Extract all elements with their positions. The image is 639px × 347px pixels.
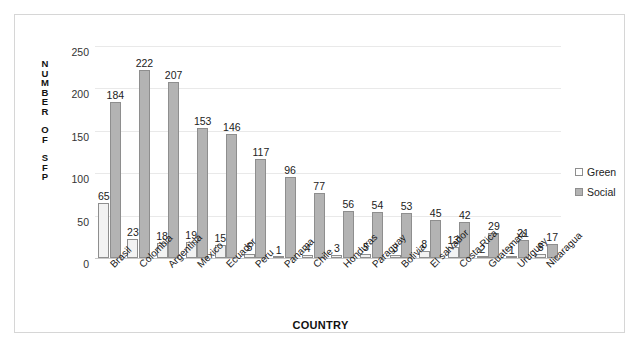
- bar-group: 554: [357, 46, 386, 258]
- bar-value-label: 146: [223, 121, 241, 133]
- bar-value-label: 42: [459, 209, 471, 221]
- y-axis-title-letter: P: [37, 172, 53, 182]
- legend-swatch-icon: [575, 168, 583, 176]
- bar-group: 353: [386, 46, 415, 258]
- bar-social: [110, 102, 121, 258]
- bar-value-label: 153: [194, 115, 212, 127]
- legend-swatch-icon: [575, 188, 583, 196]
- bar-group: 845: [415, 46, 444, 258]
- bar-value-label: 45: [430, 207, 442, 219]
- bar-green: [477, 256, 488, 258]
- bar-social: [285, 177, 296, 258]
- bar-value-label: 222: [136, 57, 154, 69]
- x-axis-category-labels: BrasilColombiaArgentinaMexicoEcuadorPeru…: [95, 260, 561, 318]
- bar-value-label: 207: [165, 69, 183, 81]
- bar-group: 15146: [212, 46, 241, 258]
- bar-value-label: 117: [253, 146, 270, 158]
- bar-value-label: 1: [276, 244, 282, 256]
- y-axis-title-letter: F: [37, 135, 53, 145]
- bar-green: [331, 255, 342, 258]
- y-axis-title: NUMBEROFSFP: [37, 59, 53, 182]
- legend-item-green[interactable]: Green: [575, 166, 616, 178]
- bar-group: 1342: [445, 46, 474, 258]
- bar-group: 356: [328, 46, 357, 258]
- bar-value-label: 56: [342, 198, 354, 210]
- bar-group: 19153: [182, 46, 211, 258]
- bar-group: 517: [532, 46, 561, 258]
- y-axis-title-letter: R: [37, 107, 53, 117]
- legend-label: Social: [587, 186, 616, 198]
- bar-value-label: 184: [107, 89, 125, 101]
- bar-green: [98, 203, 109, 258]
- bar-social: [168, 82, 179, 258]
- bar-value-label: 23: [127, 226, 139, 238]
- legend-item-social[interactable]: Social: [575, 186, 616, 198]
- bar-social: [139, 70, 150, 258]
- bar-value-label: 54: [372, 199, 384, 211]
- bar-group: 23222: [124, 46, 153, 258]
- bar-group: 18207: [153, 46, 182, 258]
- chart-frame: NUMBEROFSFP 050100150200250 651842322218…: [14, 14, 625, 333]
- legend-label: Green: [587, 166, 616, 178]
- bar-social: [226, 134, 237, 258]
- bar-group: 5117: [241, 46, 270, 258]
- bar-green: [273, 256, 284, 258]
- bar-value-label: 96: [284, 164, 296, 176]
- y-axis-tick-labels: 050100150200250: [53, 46, 89, 258]
- bar-group: 477: [299, 46, 328, 258]
- chart-legend: GreenSocial: [575, 166, 616, 206]
- bar-value-label: 53: [401, 200, 413, 212]
- bar-group: 229: [474, 46, 503, 258]
- bar-group: 196: [270, 46, 299, 258]
- bar-group: 121: [503, 46, 532, 258]
- bar-value-label: 65: [98, 190, 110, 202]
- bar-group: 65184: [95, 46, 124, 258]
- bar-green: [506, 256, 517, 258]
- bar-value-label: 77: [313, 180, 325, 192]
- x-axis-title: COUNTRY: [15, 319, 626, 331]
